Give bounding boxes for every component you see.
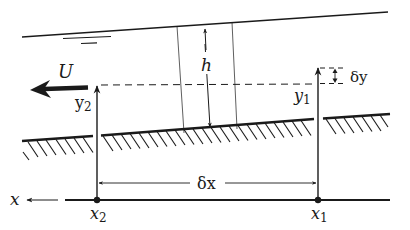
delta-y-label: δy bbox=[350, 68, 368, 86]
delta-x-label: δx bbox=[197, 174, 216, 193]
velocity-label: U bbox=[58, 61, 74, 82]
reference-dashed-line bbox=[101, 84, 316, 85]
delta-y-marker bbox=[320, 68, 347, 84]
control-volume-left-side bbox=[177, 26, 184, 133]
control-volume-right-side bbox=[232, 22, 237, 129]
channel-bed bbox=[22, 114, 390, 141]
flow-diagram: h δy bbox=[0, 0, 410, 230]
station-x1-dot bbox=[315, 197, 321, 203]
station-x2-dot bbox=[94, 197, 100, 203]
depth-label: h bbox=[201, 55, 212, 75]
y1-label: y1 bbox=[293, 86, 311, 107]
x-axis-label: x bbox=[10, 189, 20, 209]
y2-label: y2 bbox=[74, 93, 92, 114]
x1-label: x1 bbox=[311, 204, 328, 225]
x2-label: x2 bbox=[90, 204, 107, 225]
water-level-symbol bbox=[63, 37, 111, 44]
